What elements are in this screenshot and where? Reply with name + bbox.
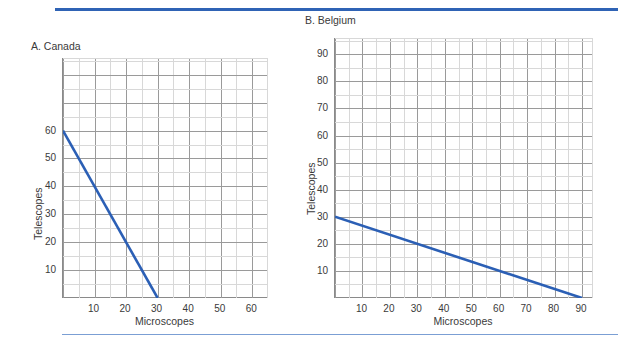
x-tick-label: 10 bbox=[81, 303, 107, 314]
x-tick-label: 40 bbox=[431, 303, 457, 314]
x-tick-label: 80 bbox=[541, 303, 567, 314]
y-tick-label: 30 bbox=[26, 208, 56, 219]
y-tick-label: 20 bbox=[298, 238, 328, 249]
chart-title-canada: A. Canada bbox=[31, 40, 81, 52]
plot-area-belgium bbox=[334, 38, 592, 298]
top-divider-rule bbox=[55, 8, 618, 11]
y-tick-label: 40 bbox=[298, 184, 328, 195]
y-tick-label: 10 bbox=[298, 265, 328, 276]
x-axis-label-canada: Microscopes bbox=[62, 315, 267, 327]
x-tick-label: 60 bbox=[238, 303, 264, 314]
y-tick-label: 70 bbox=[298, 102, 328, 113]
x-tick-label: 40 bbox=[175, 303, 201, 314]
y-tick-label: 50 bbox=[298, 157, 328, 168]
x-tick-label: 70 bbox=[513, 303, 539, 314]
bottom-divider-rule bbox=[62, 334, 618, 335]
y-tick-label: 80 bbox=[298, 75, 328, 86]
y-tick-label: 10 bbox=[26, 264, 56, 275]
x-tick-label: 50 bbox=[458, 303, 484, 314]
x-tick-label: 20 bbox=[376, 303, 402, 314]
plot-svg-belgium bbox=[335, 38, 593, 298]
x-tick-label: 30 bbox=[144, 303, 170, 314]
y-tick-label: 30 bbox=[298, 211, 328, 222]
x-tick-label: 60 bbox=[486, 303, 512, 314]
y-tick-label: 60 bbox=[298, 130, 328, 141]
y-tick-label: 60 bbox=[26, 125, 56, 136]
x-axis-label-belgium: Microscopes bbox=[334, 315, 592, 327]
x-tick-label: 50 bbox=[207, 303, 233, 314]
x-tick-label: 90 bbox=[568, 303, 594, 314]
x-tick-label: 20 bbox=[112, 303, 138, 314]
chart-title-belgium: B. Belgium bbox=[305, 14, 356, 26]
y-tick-label: 20 bbox=[26, 236, 56, 247]
y-tick-label: 90 bbox=[298, 48, 328, 59]
x-tick-label: 30 bbox=[403, 303, 429, 314]
plot-area-canada bbox=[62, 58, 267, 298]
x-tick-label: 10 bbox=[348, 303, 374, 314]
plot-svg-canada bbox=[63, 58, 268, 298]
y-tick-label: 50 bbox=[26, 152, 56, 163]
y-tick-label: 40 bbox=[26, 180, 56, 191]
